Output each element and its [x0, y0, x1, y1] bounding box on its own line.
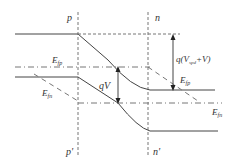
p-prime-label: p' [65, 146, 74, 157]
p-label: p [66, 12, 72, 23]
arrow-up-icon [171, 34, 176, 40]
efn-label-left: Efn [41, 88, 52, 99]
band-diagram: p n p' n' Efp Efn Efp Efn qV q(Vspd+V) [0, 0, 233, 160]
barrier-label: q(Vspd+V) [176, 54, 211, 65]
efn-label-right: Efn [211, 107, 222, 118]
efp-label-left: Efp [51, 55, 62, 66]
efn-slant-line [34, 74, 78, 101]
efp-label-right: Efp [179, 75, 190, 86]
n-label: n [155, 12, 160, 23]
qv-label: qV [99, 80, 112, 91]
n-prime-label: n' [153, 146, 161, 157]
